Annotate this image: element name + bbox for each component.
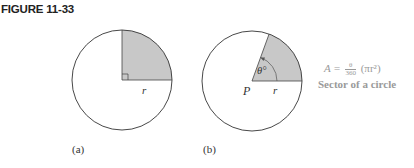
caption-a: (a) [72, 143, 84, 155]
angle-label-theta: θ° [257, 65, 266, 76]
radius-label-b: r [273, 84, 277, 96]
formula-fraction: θ 360 [345, 62, 356, 77]
formula-denominator: 360 [345, 70, 356, 77]
formula-rhs: (πr²) [361, 62, 381, 74]
sector-a [122, 30, 172, 80]
radius-label-a: r [142, 84, 146, 96]
center-label-p: P [243, 84, 250, 99]
caption-b: (b) [203, 143, 216, 155]
sector-label: Sector of a circle [318, 78, 396, 90]
sector-area-formula: A = θ 360 (πr²) [324, 62, 381, 77]
formula-lhs: A = [324, 62, 341, 74]
panel-a [72, 30, 172, 130]
panel-b [202, 31, 302, 131]
